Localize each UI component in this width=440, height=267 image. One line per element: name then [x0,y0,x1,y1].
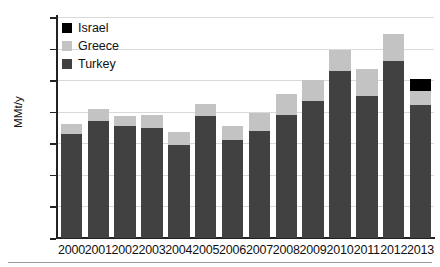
bar-segment-turkey-2004[interactable] [168,145,189,238]
legend-label-greece: Greece [78,40,119,53]
legend-swatch-greece-icon [62,41,72,51]
y-tick-mark [50,175,56,177]
bar-segment-greece-2008[interactable] [276,94,297,115]
y-tick-mark [50,112,56,114]
bar-segment-greece-2004[interactable] [168,132,189,145]
bar-2006[interactable] [222,17,243,238]
bar-segment-greece-2006[interactable] [222,126,243,140]
bar-2005[interactable] [195,17,216,238]
bar-segment-greece-2009[interactable] [302,80,323,101]
bar-2008[interactable] [276,17,297,238]
bar-2012[interactable] [383,17,404,238]
y-tick-mark [50,80,56,82]
legend-label-israel: Israel [78,22,109,35]
bar-2010[interactable] [329,17,350,238]
bar-segment-greece-2010[interactable] [329,50,350,71]
bar-segment-turkey-2013[interactable] [410,105,431,238]
bar-2007[interactable] [249,17,270,238]
bar-segment-turkey-2010[interactable] [329,71,350,238]
bar-segment-turkey-2003[interactable] [141,128,162,239]
bar-segment-turkey-2009[interactable] [302,101,323,238]
bar-segment-turkey-2000[interactable] [61,134,82,238]
bar-segment-turkey-2005[interactable] [195,116,216,238]
bar-segment-turkey-2012[interactable] [383,61,404,238]
legend-label-turkey: Turkey [78,58,116,71]
y-tick-mark [50,238,56,240]
bar-segment-turkey-2006[interactable] [222,140,243,238]
legend-swatch-israel-icon [62,23,72,33]
bar-segment-greece-2002[interactable] [114,116,135,125]
bar-2013[interactable] [410,17,431,238]
legend-item-turkey[interactable]: Turkey [62,56,119,72]
y-tick-mark [50,17,56,19]
y-tick-mark [50,49,56,51]
legend-swatch-turkey-icon [62,59,72,69]
bar-segment-turkey-2001[interactable] [88,121,109,238]
bar-segment-greece-2013[interactable] [410,91,431,105]
legend-item-israel[interactable]: Israel [62,20,119,36]
bar-segment-turkey-2007[interactable] [249,131,270,238]
chart-figure: MMt/y 01234567 2000200120022003200420052… [0,0,440,267]
chart-legend: IsraelGreeceTurkey [62,20,119,72]
bar-segment-greece-2001[interactable] [88,109,109,122]
bar-2009[interactable] [302,17,323,238]
bar-segment-greece-2012[interactable] [383,34,404,61]
bar-segment-turkey-2008[interactable] [276,115,297,238]
y-tick-mark [50,143,56,145]
bottom-divider [8,262,432,263]
y-tick-mark [50,206,56,208]
bar-segment-greece-2000[interactable] [61,124,82,133]
bar-2004[interactable] [168,17,189,238]
bar-segment-israel-2013[interactable] [410,79,431,92]
legend-item-greece[interactable]: Greece [62,38,119,54]
bar-segment-greece-2005[interactable] [195,104,216,117]
bar-2011[interactable] [356,17,377,238]
bar-segment-turkey-2011[interactable] [356,96,377,238]
bar-segment-greece-2011[interactable] [356,69,377,96]
bar-segment-turkey-2002[interactable] [114,126,135,238]
x-tick-label-2013: 2013 [405,243,436,257]
bar-segment-greece-2003[interactable] [141,115,162,128]
y-axis-label: MMt/y [12,72,24,152]
bar-2003[interactable] [141,17,162,238]
bar-segment-greece-2007[interactable] [249,113,270,130]
